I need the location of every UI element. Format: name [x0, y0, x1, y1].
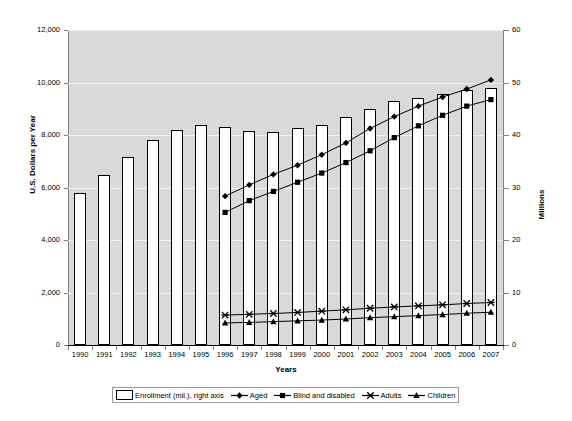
legend-label: Children — [427, 391, 455, 400]
y-axis-right-tick — [504, 188, 509, 189]
bar-enrollment — [243, 131, 255, 345]
bar-enrollment — [267, 132, 279, 345]
gridline — [68, 83, 503, 84]
bar-enrollment — [388, 101, 400, 345]
y-axis-left-label: 12,000 — [18, 25, 60, 34]
y-axis-right-label: 50 — [512, 78, 546, 87]
bar-enrollment — [461, 90, 473, 345]
bar-enrollment — [292, 128, 304, 345]
bar-enrollment — [147, 140, 159, 345]
bar-swatch-icon — [116, 390, 133, 400]
y-axis-right-title: Millions — [537, 160, 546, 250]
bar-enrollment — [219, 127, 231, 345]
bar-enrollment — [122, 157, 134, 345]
x-axis-label: 2007 — [473, 350, 509, 359]
y-axis-left-title: U.S. Dollars per Year — [28, 75, 37, 235]
bar-enrollment — [171, 130, 183, 345]
bar-enrollment — [340, 117, 352, 345]
y-axis-left-tick — [64, 30, 68, 31]
y-axis-right-label: 60 — [512, 25, 546, 34]
y-axis-right-tick — [504, 345, 509, 346]
legend-item[interactable]: Children — [408, 391, 455, 400]
diamond-line-icon — [231, 391, 248, 400]
x-axis-title: Years — [0, 365, 572, 374]
y-axis-left-label: 0 — [18, 340, 60, 349]
y-axis-left-tick — [64, 188, 68, 189]
bar-enrollment — [195, 125, 207, 346]
y-axis-left-label: 10,000 — [18, 78, 60, 87]
y-axis-right-label: 40 — [512, 130, 546, 139]
y-axis-right-tick — [504, 293, 509, 294]
y-axis-right-tick — [504, 135, 509, 136]
legend-item[interactable]: Enrollment (mil.), right axis — [116, 390, 224, 400]
bar-enrollment — [437, 94, 449, 345]
y-axis-left-label: 8,000 — [18, 130, 60, 139]
gridline — [68, 30, 503, 31]
legend-label: Blind and disabled — [293, 391, 354, 400]
y-axis-right-label: 10 — [512, 288, 546, 297]
triangle-line-icon — [408, 391, 425, 400]
legend-label: Aged — [250, 391, 268, 400]
bar-enrollment — [364, 109, 376, 345]
legend-label: Enrollment (mil.), right axis — [135, 391, 224, 400]
y-axis-right-tick — [504, 240, 509, 241]
data-point-diamond — [236, 392, 242, 398]
bar-enrollment — [485, 88, 497, 345]
bar-enrollment — [98, 175, 110, 345]
y-axis-left-tick — [64, 135, 68, 136]
x-axis-tick — [503, 346, 504, 350]
y-axis-left-label: 4,000 — [18, 235, 60, 244]
x-axis-line — [68, 345, 504, 346]
legend-item[interactable]: Adults — [362, 391, 402, 400]
data-point-x-star — [366, 392, 374, 398]
y-axis-right-tick — [504, 30, 509, 31]
bar-enrollment — [74, 193, 86, 345]
legend-label: Adults — [381, 391, 402, 400]
y-axis-left-label: 2,000 — [18, 288, 60, 297]
data-point-square — [280, 392, 285, 397]
bar-enrollment — [412, 98, 424, 345]
legend-item[interactable]: Aged — [231, 391, 268, 400]
y-axis-right-label: 0 — [512, 340, 546, 349]
chart-container: 02,0004,0006,0008,00010,00012,0000102030… — [0, 0, 572, 421]
legend-item[interactable]: Blind and disabled — [274, 391, 354, 400]
y-axis-right-tick — [504, 83, 509, 84]
bar-enrollment — [316, 125, 328, 346]
y-axis-left-tick — [64, 83, 68, 84]
chart-legend: Enrollment (mil.), right axisAgedBlind a… — [112, 387, 459, 403]
y-axis-left-tick — [64, 293, 68, 294]
y-axis-left-label: 6,000 — [18, 183, 60, 192]
square-line-icon — [274, 391, 291, 400]
y-axis-left-tick — [64, 240, 68, 241]
x-star-line-icon — [362, 391, 379, 400]
